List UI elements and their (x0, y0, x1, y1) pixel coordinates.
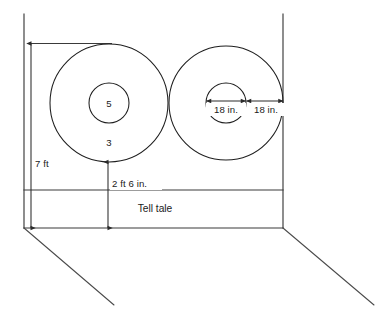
diagram-canvas: 5 3 7 ft 2 ft 6 in. 18 in. 18 in. (0, 0, 388, 320)
left-wheel-outer-label: 3 (106, 137, 111, 148)
left-floor-perspective-line (24, 228, 114, 305)
right-floor-perspective-line (283, 228, 374, 305)
structure-group (24, 14, 374, 305)
left-wheel-inner-label: 5 (106, 98, 111, 109)
inner-radius-label: 18 in. (214, 104, 238, 115)
left-wheel-group: 5 3 (50, 44, 168, 162)
tell-tale-clearance-label: 2 ft 6 in. (112, 178, 147, 189)
overall-height-label: 7 ft (35, 158, 49, 169)
tell-tale-elevation-diagram: 5 3 7 ft 2 ft 6 in. 18 in. 18 in. (0, 0, 388, 320)
overall-height-dimension: 7 ft (31, 44, 55, 229)
tell-tale-clearance-dimension: 2 ft 6 in. (108, 162, 162, 228)
tell-tale-band-label: Tell tale (138, 203, 173, 214)
outer-annulus-label: 18 in. (254, 104, 278, 115)
